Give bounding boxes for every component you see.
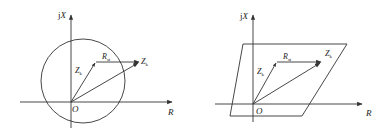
impedance-diagrams: jX R O Zk Rst Zk jX R O Zk Rst Zk xyxy=(0,0,388,135)
x-axis-label: R xyxy=(167,107,174,117)
circle-diagram: jX R O Zk Rst Zk xyxy=(20,10,174,128)
vector-total-zk xyxy=(71,63,138,102)
origin-label: O xyxy=(256,106,263,116)
vector-rst-label: Rst xyxy=(282,52,292,62)
vector-total-zk xyxy=(253,63,320,104)
parallelogram-diagram: jX R O Zk Rst Zk xyxy=(215,11,372,122)
vector-rst-label: Rst xyxy=(101,52,111,62)
vector-zk-label: Zk xyxy=(75,66,82,76)
y-axis-label: jX xyxy=(57,10,67,20)
circle-boundary xyxy=(41,39,125,123)
y-axis-label: jX xyxy=(239,11,249,21)
vector-total-label: Zk xyxy=(325,49,332,59)
origin-label: O xyxy=(72,104,79,114)
vector-zk-label: Zk xyxy=(257,67,264,77)
vector-total-label: Zk xyxy=(141,57,148,67)
x-axis-label: R xyxy=(365,108,372,118)
